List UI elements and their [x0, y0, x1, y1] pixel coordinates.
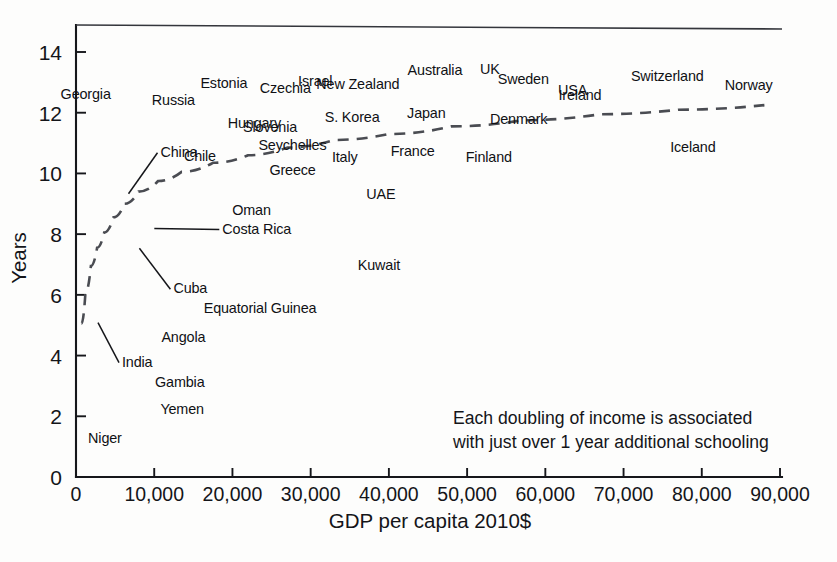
point-label-finland: Finland	[466, 149, 512, 165]
y-tick-label: 6	[50, 284, 62, 307]
point-label-sweden: Sweden	[498, 71, 549, 87]
x-tick-label: 10,000	[124, 483, 184, 505]
point-labels: GeorgiaRussiaEstoniaCzechiaIsraelNew Zea…	[61, 61, 774, 446]
y-tick-label: 8	[50, 223, 62, 246]
leader-line	[139, 248, 170, 289]
x-tick-label: 0	[71, 483, 82, 505]
point-label-costa-rica: Costa Rica	[222, 221, 291, 237]
point-label-japan: Japan	[407, 105, 446, 121]
point-label-slovenia: Slovenia	[243, 119, 297, 135]
point-label-s-korea: S. Korea	[325, 109, 380, 125]
point-label-oman: Oman	[232, 202, 271, 218]
x-tick-label: 40,000	[359, 483, 419, 505]
point-label-uae: UAE	[366, 186, 395, 202]
point-label-seychelles: Seychelles	[258, 137, 326, 153]
chart-annotation: Each doubling of income is associated wi…	[452, 408, 769, 452]
point-label-gambia: Gambia	[155, 374, 205, 390]
x-tick-label: 90,000	[750, 483, 810, 505]
y-tick-label: 4	[50, 345, 62, 368]
x-tick-label: 20,000	[203, 483, 263, 505]
annotation-line-2: with just over 1 year additional schooli…	[452, 432, 769, 452]
point-label-angola: Angola	[161, 329, 205, 345]
point-label-ireland: Ireland	[559, 87, 602, 103]
point-label-switzerland: Switzerland	[631, 68, 704, 84]
point-label-new-zealand: New Zealand	[316, 76, 399, 92]
x-tick-label: 60,000	[516, 483, 576, 505]
x-tick-label: 50,000	[437, 483, 497, 505]
chart-figure: 010,00020,00030,00040,00050,00060,00070,…	[0, 0, 837, 562]
point-label-norway: Norway	[725, 77, 774, 93]
y-axis-title: Years	[7, 232, 30, 284]
y-tick-label: 2	[50, 405, 62, 428]
annotation-line-1: Each doubling of income is associated	[453, 408, 752, 428]
scatter-plot-canvas: 010,00020,00030,00040,00050,00060,00070,…	[0, 0, 837, 562]
point-label-kuwait: Kuwait	[358, 257, 400, 273]
y-tick-label: 10	[39, 162, 62, 185]
point-label-france: France	[391, 143, 435, 159]
point-label-cuba: Cuba	[173, 280, 207, 296]
point-label-yemen: Yemen	[160, 401, 204, 417]
point-label-denmark: Denmark	[490, 111, 548, 127]
point-label-equatorial-guinea: Equatorial Guinea	[204, 300, 317, 316]
point-label-italy: Italy	[332, 149, 359, 165]
point-label-chile: Chile	[184, 148, 216, 164]
x-tick-label: 30,000	[281, 483, 341, 505]
point-label-russia: Russia	[152, 92, 195, 108]
point-label-australia: Australia	[408, 62, 463, 78]
point-label-greece: Greece	[269, 162, 315, 178]
y-tick-label: 12	[39, 102, 62, 125]
point-label-estonia: Estonia	[200, 75, 247, 91]
leader-line	[129, 153, 158, 194]
x-tick-label: 80,000	[672, 483, 732, 505]
y-tick-label: 0	[50, 466, 62, 489]
y-axis-tick-labels: 02468101214	[39, 41, 63, 489]
x-axis-tick-labels: 010,00020,00030,00040,00050,00060,00070,…	[71, 483, 810, 505]
point-label-georgia: Georgia	[61, 86, 111, 102]
point-label-india: India	[122, 354, 153, 370]
y-tick-label: 14	[39, 41, 63, 64]
point-label-iceland: Iceland	[670, 139, 716, 155]
point-label-niger: Niger	[88, 430, 122, 446]
leader-line	[154, 229, 219, 230]
x-axis-title: GDP per capita 2010$	[329, 509, 532, 532]
x-tick-label: 70,000	[594, 483, 654, 505]
leader-line	[98, 323, 119, 363]
